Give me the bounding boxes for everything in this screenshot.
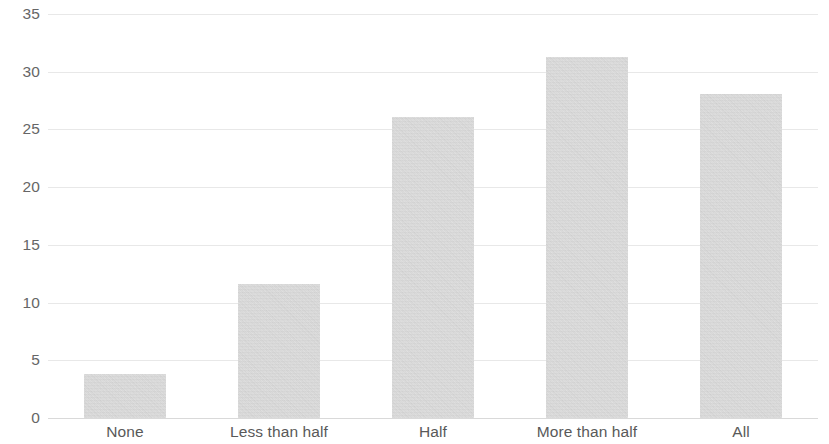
y-tick-label-5: 5: [2, 352, 40, 368]
y-axis: 05101520253035: [0, 0, 40, 444]
y-tick-label-15: 15: [2, 237, 40, 253]
x-axis: NoneLess than halfHalfMore than halfAll: [48, 422, 818, 444]
x-tick-label-none: None: [48, 422, 202, 442]
y-tick-label-25: 25: [2, 121, 40, 137]
y-tick-label-0: 0: [2, 410, 40, 426]
bar-all: [700, 94, 782, 418]
bar-more-than-half: [546, 57, 628, 418]
x-tick-label-half: Half: [356, 422, 510, 442]
y-tick-label-30: 30: [2, 64, 40, 80]
bar-half: [392, 117, 474, 418]
bars-layer: [48, 0, 818, 444]
bar-less-than-half: [238, 284, 320, 418]
x-tick-label-all: All: [664, 422, 818, 442]
bar-none: [84, 374, 166, 418]
y-tick-label-35: 35: [2, 6, 40, 22]
bar-chart: 05101520253035 NoneLess than halfHalfMor…: [0, 0, 829, 444]
y-tick-label-20: 20: [2, 179, 40, 195]
y-tick-label-10: 10: [2, 295, 40, 311]
x-tick-label-more-than-half: More than half: [510, 422, 664, 442]
x-tick-label-less-than-half: Less than half: [202, 422, 356, 442]
